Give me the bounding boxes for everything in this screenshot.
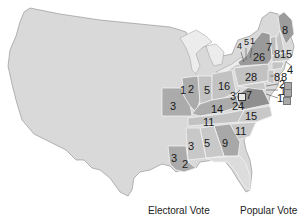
label-missouri: 3 (170, 101, 176, 112)
label-vermont: 7 (266, 42, 272, 53)
label-virginia: 24 (232, 101, 244, 112)
label-rhode-island: 4 (287, 65, 293, 76)
label-new-york-split-1: 4 (237, 42, 242, 51)
maryland-square-2 (283, 97, 291, 105)
label-new-york-split-2: 5 (244, 38, 249, 47)
label-new-york-split-3: 1 (250, 37, 255, 46)
label-louisiana-west: 3 (171, 153, 177, 164)
label-pennsylvania: 28 (245, 72, 257, 83)
label-maryland-4: 7 (246, 90, 252, 101)
legend-electoral-vote: Electoral Vote (148, 205, 210, 216)
label-alabama: 5 (204, 138, 210, 149)
label-massachusetts: 15 (280, 49, 292, 60)
maryland-square-1 (284, 89, 292, 97)
label-mississippi: 3 (188, 141, 194, 152)
state-florida[interactable] (206, 156, 250, 190)
label-illinois: 2 (188, 84, 194, 95)
label-north-carolina: 15 (245, 111, 257, 122)
label-ohio: 16 (218, 81, 230, 92)
us-map (0, 0, 304, 220)
label-tennessee: 11 (203, 117, 214, 128)
label-georgia: 9 (222, 138, 228, 149)
label-louisiana: 2 (182, 159, 188, 170)
label-indiana: 5 (204, 85, 210, 96)
open-square-marker (238, 93, 246, 101)
label-south-carolina: 11 (235, 126, 246, 137)
legend-popular-vote: Popular Vote (240, 205, 297, 216)
label-kentucky: 14 (211, 104, 223, 115)
label-illinois-split: 1 (180, 85, 186, 96)
label-new-york: 26 (253, 52, 265, 63)
label-maine: 8 (282, 25, 288, 36)
